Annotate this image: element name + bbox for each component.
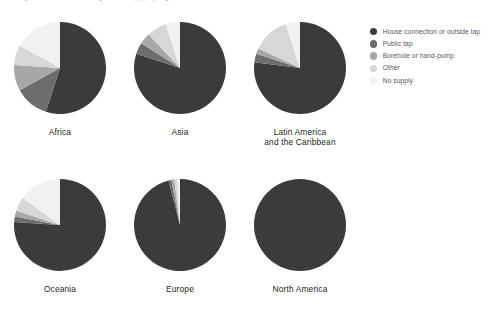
pie-chart-graphic xyxy=(8,16,112,120)
pie-chart-label: Africa xyxy=(0,127,120,137)
legend: House connection or outside tapPublic ta… xyxy=(370,26,493,87)
pie-chart-label-line: North America xyxy=(240,284,360,294)
pie-chart xyxy=(120,16,240,124)
pie-chart-cell: Africa xyxy=(0,16,120,137)
legend-swatch-icon xyxy=(370,40,377,47)
pie-chart-cell: Latin Americaand the Caribbean xyxy=(240,16,360,147)
pie-chart-cell: Oceania xyxy=(0,173,120,294)
pie-chart-label-line: Europe xyxy=(120,284,240,294)
pie-chart-cell: North America xyxy=(240,173,360,294)
legend-swatch-icon xyxy=(370,52,377,59)
pie-chart-cell: Asia xyxy=(120,16,240,137)
pie-chart xyxy=(120,173,240,281)
pie-chart-label-line: Oceania xyxy=(0,284,120,294)
legend-item-label: No supply xyxy=(383,77,413,85)
legend-item: No supply xyxy=(370,75,493,87)
legend-swatch-icon xyxy=(370,77,377,84)
pie-chart-label-line: Asia xyxy=(120,127,240,137)
legend-item: Borehole or hand-pump xyxy=(370,50,493,62)
legend-item: Other xyxy=(370,63,493,75)
pie-chart-graphic xyxy=(248,16,352,120)
legend-item-label: Public tap xyxy=(383,40,413,48)
pie-chart xyxy=(240,173,360,281)
legend-item: House connection or outside tap xyxy=(370,26,493,38)
pie-chart xyxy=(0,173,120,281)
pie-chart-label: Europe xyxy=(120,284,240,294)
figure-root: Figure: Access to drinking water supply … xyxy=(0,0,493,315)
pie-chart-label: North America xyxy=(240,284,360,294)
pie-chart-label: Oceania xyxy=(0,284,120,294)
pie-chart xyxy=(240,16,360,124)
pie-chart xyxy=(0,16,120,124)
pie-chart-graphic xyxy=(128,16,232,120)
pie-chart-label-line: and the Caribbean xyxy=(240,137,360,147)
legend-item-label: Borehole or hand-pump xyxy=(383,52,454,60)
legend-swatch-icon xyxy=(370,65,377,72)
pie-chart-label-line: Latin America xyxy=(240,127,360,137)
pie-chart-graphic xyxy=(128,173,232,277)
pie-chart-graphic xyxy=(8,173,112,277)
legend-item: Public tap xyxy=(370,38,493,50)
legend-item-label: House connection or outside tap xyxy=(383,28,480,36)
pie-chart-label: Asia xyxy=(120,127,240,137)
pie-chart-graphic xyxy=(248,173,352,277)
pie-chart-cell: Europe xyxy=(120,173,240,294)
legend-item-label: Other xyxy=(383,64,400,72)
pie-chart-grid: AfricaAsiaLatin Americaand the Caribbean… xyxy=(0,0,360,315)
pie-slice xyxy=(254,179,346,271)
pie-chart-label: Latin Americaand the Caribbean xyxy=(240,127,360,147)
legend-swatch-icon xyxy=(370,28,377,35)
pie-chart-label-line: Africa xyxy=(0,127,120,137)
